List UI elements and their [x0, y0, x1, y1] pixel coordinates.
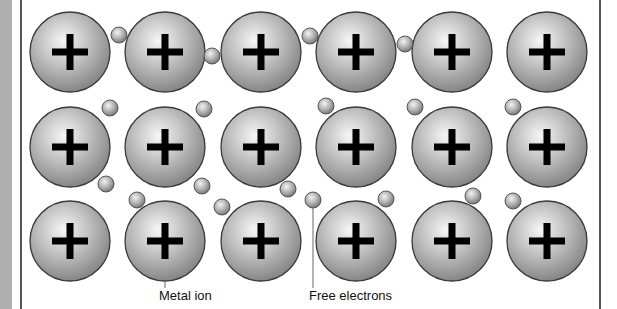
metal-ion	[125, 201, 205, 281]
metal-ion	[316, 12, 396, 92]
free-electron	[378, 191, 394, 207]
free-electron	[280, 181, 296, 197]
free-electron	[318, 98, 334, 114]
free-electron	[204, 48, 220, 64]
free-electron	[305, 192, 321, 208]
free-electron	[98, 176, 114, 192]
free-electron	[505, 99, 521, 115]
metal-ion	[30, 201, 110, 281]
free-electron	[194, 178, 210, 194]
metal-ion	[221, 107, 301, 187]
metal-ion	[221, 201, 301, 281]
metal-ion	[30, 107, 110, 187]
metal-ion	[412, 107, 492, 187]
free-electron	[407, 99, 423, 115]
metal-ion	[507, 201, 587, 281]
metal-ion	[316, 201, 396, 281]
free-electron	[102, 100, 118, 116]
metal-ion	[316, 107, 396, 187]
metal-ion	[507, 12, 587, 92]
free-electron	[505, 193, 521, 209]
free-electron	[111, 27, 127, 43]
metal-ions-group	[30, 12, 587, 281]
metal-ion	[507, 107, 587, 187]
metal-ion	[412, 201, 492, 281]
free-electron	[397, 36, 413, 52]
free-electron	[465, 188, 481, 204]
metal-lattice-diagram	[0, 0, 617, 309]
metal-ion	[30, 12, 110, 92]
free-electron	[129, 192, 145, 208]
metal-ion	[125, 107, 205, 187]
free-electron	[214, 199, 230, 215]
metal-ion-label: Metal ion	[159, 288, 212, 303]
free-electron	[196, 101, 212, 117]
free-electron	[302, 28, 318, 44]
free-electrons-label: Free electrons	[309, 288, 392, 303]
metal-ion	[221, 12, 301, 92]
metal-ion	[412, 12, 492, 92]
metal-ion	[125, 12, 205, 92]
